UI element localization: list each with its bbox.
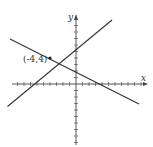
y-axis-label: y xyxy=(67,12,74,22)
intersection-point xyxy=(48,56,51,59)
x-axis-label: x xyxy=(141,73,146,83)
y-axis xyxy=(74,14,78,145)
line-2 xyxy=(10,39,139,104)
point-label: (-4,4) xyxy=(23,54,47,64)
coordinate-plane: (-4,4) x y xyxy=(0,0,153,147)
